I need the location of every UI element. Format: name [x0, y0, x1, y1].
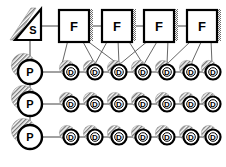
d-circle-inner: [115, 133, 124, 142]
d-circle-inner: [67, 68, 76, 77]
node-d-r1-3[interactable]: D: [112, 65, 127, 80]
p-circle-shape: [18, 92, 42, 116]
d-circle-inner: [163, 68, 172, 77]
node-d-r2-3[interactable]: D: [112, 97, 127, 112]
node-p-1[interactable]: P: [18, 60, 42, 84]
node-d-r2-7[interactable]: D: [206, 97, 221, 112]
node-d-r2-5[interactable]: D: [160, 97, 175, 112]
d-circle-inner: [91, 100, 100, 109]
node-d-r2-1[interactable]: D: [64, 97, 79, 112]
node-f-2[interactable]: F: [102, 10, 132, 42]
p-circle-shape: [18, 125, 42, 149]
node-f-1[interactable]: F: [59, 10, 89, 42]
edge-f-to-d: [95, 40, 108, 64]
edge-f-to-d: [128, 40, 143, 64]
edge-f-to-d: [191, 40, 202, 64]
edge-f-to-d: [120, 40, 149, 64]
node-d-r3-3[interactable]: D: [112, 130, 127, 145]
node-d-r1-1[interactable]: D: [64, 65, 79, 80]
d-circle-inner: [67, 133, 76, 142]
p-circle-shape: [18, 60, 42, 84]
node-f-4[interactable]: F: [187, 10, 217, 42]
d-circle-inner: [139, 133, 148, 142]
edge-f-to-d: [167, 40, 168, 64]
d-circle-inner: [115, 68, 124, 77]
d-circle-inner: [209, 68, 218, 77]
node-d-r1-4[interactable]: D: [136, 65, 151, 80]
d-circle-inner: [67, 100, 76, 109]
node-d-r2-2[interactable]: D: [88, 97, 103, 112]
d-circle-inner: [115, 100, 124, 109]
node-d-r3-7[interactable]: D: [206, 130, 221, 145]
f-square-shape: [144, 10, 174, 42]
f-square-shape: [102, 10, 132, 42]
edge-f-to-d: [144, 40, 158, 64]
node-p-2[interactable]: P: [18, 92, 42, 116]
d-circle-inner: [187, 100, 196, 109]
diagram-canvas: S FFFFPPPDDDDDDDDDDDDDDDDDDDDD: [0, 0, 226, 167]
d-circle-inner: [91, 68, 100, 77]
d-circle-inner: [209, 100, 218, 109]
d-circle-inner: [91, 133, 100, 142]
node-d-r3-2[interactable]: D: [88, 130, 103, 145]
node-d-r1-5[interactable]: D: [160, 65, 175, 80]
d-circle-inner: [187, 133, 196, 142]
node-d-r3-6[interactable]: D: [184, 130, 199, 145]
f-square-shape: [59, 10, 89, 42]
d-circle-inner: [209, 133, 218, 142]
node-d-r3-1[interactable]: D: [64, 130, 79, 145]
d-circle-inner: [187, 68, 196, 77]
node-d-r1-7[interactable]: D: [206, 65, 221, 80]
node-d-r2-6[interactable]: D: [184, 97, 199, 112]
node-p-3[interactable]: P: [18, 125, 42, 149]
node-d-r1-6[interactable]: D: [184, 65, 199, 80]
diagram-svg: S FFFFPPPDDDDDDDDDDDDDDDDDDDDD: [0, 0, 226, 167]
node-f-3[interactable]: F: [144, 10, 174, 42]
node-d-r1-2[interactable]: D: [88, 65, 103, 80]
d-circle-inner: [139, 100, 148, 109]
node-d-r2-4[interactable]: D: [136, 97, 151, 112]
edge-f-to-d: [211, 40, 212, 64]
f-square-shape: [187, 10, 217, 42]
edge-f-to-d: [82, 40, 95, 64]
d-circle-inner: [163, 100, 172, 109]
d-circle-inner: [163, 133, 172, 142]
d-circle-inner: [139, 68, 148, 77]
node-d-r3-5[interactable]: D: [160, 130, 175, 145]
node-d-r3-4[interactable]: D: [136, 130, 151, 145]
edge-f-to-d: [118, 40, 119, 64]
